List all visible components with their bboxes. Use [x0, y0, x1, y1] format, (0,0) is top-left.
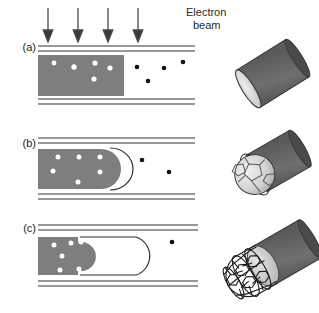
panel-a-filler-slab [38, 55, 124, 96]
beam-arrow-4 [133, 8, 143, 42]
panel-a-top-wall [38, 46, 195, 51]
beam-arrow-2 [73, 8, 83, 42]
fullerene-ball [227, 147, 282, 202]
fullerene-facets [229, 149, 278, 199]
model-cylinder-with-fullerene-cap [228, 126, 318, 204]
panel-b-bottom-wall [38, 194, 195, 199]
panel-c-inner-particles [52, 240, 84, 273]
panel-c-top-wall [38, 225, 198, 230]
panel-b-outer-particles [140, 158, 172, 175]
panel-c-outer-particles [170, 240, 175, 245]
electron-beam-label-line2: beam [186, 19, 260, 32]
model-nanotube-sheath [222, 212, 319, 312]
model-plain-cylinder [228, 38, 318, 110]
panel-c-diagram [38, 218, 203, 294]
panel-letter-a: (a) [6, 41, 36, 53]
electron-beam-label-line1: Electron [186, 6, 226, 18]
panel-letter-c: (c) [6, 222, 36, 234]
panel-a-bottom-wall [38, 99, 195, 104]
cylinder-end-cap [232, 67, 265, 111]
nanotube-hex-mesh [217, 244, 278, 306]
fullerene-wire-cage [232, 148, 278, 201]
panel-b-inner-particles [51, 155, 103, 185]
panel-a-outer-particles [135, 60, 186, 84]
panel-c-filler-retracted [38, 237, 96, 275]
cylinder-body-group [232, 37, 314, 111]
panel-b-cap-arc [110, 148, 133, 190]
panel-a-inner-particles [52, 60, 113, 81]
panel-letter-b: (b) [6, 137, 36, 149]
panel-c-capsule-outline [80, 237, 150, 275]
panel-b-diagram [38, 133, 198, 205]
panel-a-diagram [38, 40, 198, 110]
electron-beam-label: Electron beam [186, 6, 260, 32]
figure-canvas: Electron beam (a) [0, 0, 319, 313]
nanotube-inner-cap [241, 240, 286, 291]
panel-c-bottom-wall [38, 281, 198, 286]
panel-b-filler-rounded [38, 149, 121, 189]
beam-arrow-1 [43, 8, 53, 42]
panel-b-top-wall [38, 138, 195, 143]
beam-arrow-3 [103, 8, 113, 42]
